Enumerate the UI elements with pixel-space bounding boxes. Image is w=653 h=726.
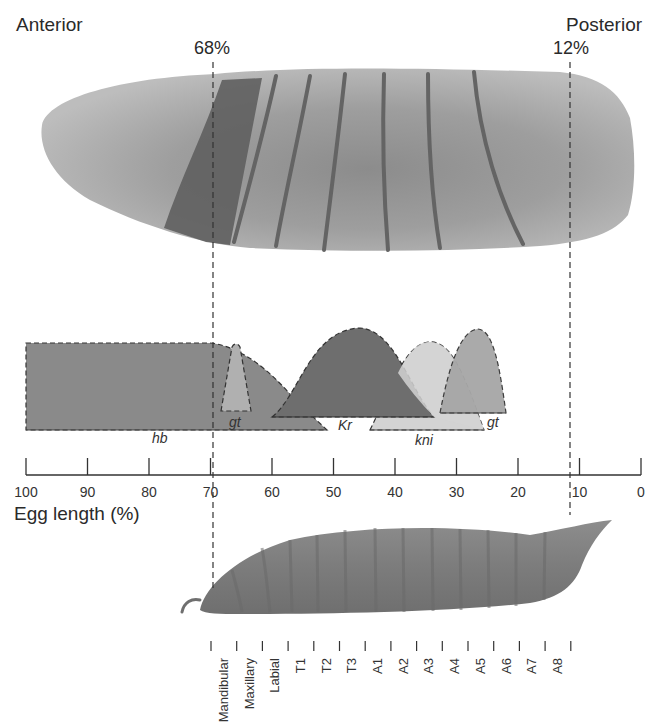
axis-tick-label: 30 <box>449 484 465 500</box>
band <box>432 528 433 611</box>
band <box>460 529 461 610</box>
egg-length-axis: 1009080706050403020100 <box>14 458 645 500</box>
band <box>345 530 346 612</box>
gt-posterior-profile <box>440 329 506 413</box>
segment-label: A7 <box>524 658 539 674</box>
axis-tick-label: 100 <box>14 484 38 500</box>
segment-label: Labial <box>267 658 282 693</box>
band <box>488 530 489 608</box>
segment-label: A2 <box>396 658 411 674</box>
band <box>290 540 292 612</box>
embryo <box>41 69 634 251</box>
segment-label: A8 <box>550 658 565 674</box>
band <box>403 528 404 612</box>
axis-tick-label: 60 <box>264 484 280 500</box>
axis-tick-label: 20 <box>510 484 526 500</box>
segment-label: A1 <box>370 658 385 674</box>
segment-label: Mandibular <box>216 657 231 722</box>
axis-ticks: 1009080706050403020100 <box>14 458 645 500</box>
gt-anterior-label: gt <box>229 414 242 430</box>
axis-tick-label: 40 <box>387 484 403 500</box>
segment-label: A6 <box>499 658 514 674</box>
segment-label: T1 <box>293 658 308 673</box>
segment-label: Maxillary <box>242 658 257 710</box>
embryo-outline <box>41 69 634 251</box>
segment-label: A5 <box>473 658 488 674</box>
gt-posterior-label: gt <box>487 414 500 430</box>
axis-tick-label: 50 <box>326 484 342 500</box>
segment-label: A4 <box>447 658 462 674</box>
larva-mouthhook <box>182 600 200 613</box>
axis-tick-label: 80 <box>141 484 157 500</box>
axis-tick-label: 70 <box>203 484 219 500</box>
segment-label: T3 <box>344 658 359 673</box>
segment-label: A3 <box>421 658 436 674</box>
band <box>317 535 318 612</box>
larva <box>182 520 612 614</box>
axis-tick-label: 90 <box>80 484 96 500</box>
kr-label: Kr <box>338 417 353 433</box>
gap-gene-profiles: hb gt Kr kni gt <box>26 328 506 448</box>
hb-label: hb <box>152 430 168 446</box>
larva-body <box>200 520 612 614</box>
kni-label: kni <box>415 432 434 448</box>
axis-tick-label: 0 <box>637 484 645 500</box>
segment-labels: MandibularMaxillaryLabialT1T2T3A1A2A3A4A… <box>211 641 571 722</box>
diagram-canvas: hb gt Kr kni gt 1009080706050403020100 <box>0 0 653 726</box>
band <box>544 532 545 600</box>
band <box>375 528 376 612</box>
axis-tick-label: 10 <box>572 484 588 500</box>
segment-label: T2 <box>319 658 334 673</box>
